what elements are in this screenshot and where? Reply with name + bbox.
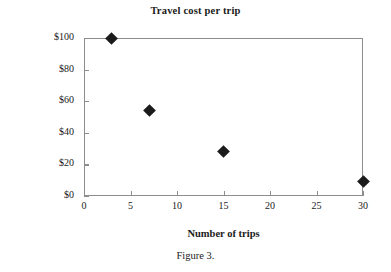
data-point bbox=[217, 145, 230, 158]
y-axis-tick-label: $80 bbox=[4, 63, 74, 74]
y-axis-tick-label: $20 bbox=[4, 157, 74, 168]
x-axis-tick-label: 30 bbox=[343, 200, 383, 211]
x-axis-tick-label: 20 bbox=[250, 200, 290, 211]
x-axis-tick-label: 0 bbox=[64, 200, 104, 211]
x-axis-tick bbox=[224, 191, 225, 196]
figure-caption: Figure 3. bbox=[0, 250, 391, 261]
chart-title: Travel cost per trip bbox=[0, 5, 391, 16]
figure-container: Travel cost per trip $0$20$40$60$80$100 … bbox=[0, 0, 391, 272]
y-axis-tick bbox=[84, 164, 89, 165]
plot-area bbox=[84, 38, 363, 196]
y-axis-tick bbox=[84, 38, 89, 39]
x-axis-tick bbox=[363, 191, 364, 196]
data-point bbox=[357, 175, 370, 188]
y-axis-tick-label: $40 bbox=[4, 126, 74, 137]
x-axis-tick-label: 15 bbox=[204, 200, 244, 211]
y-axis-tick bbox=[84, 101, 89, 102]
y-axis-tick bbox=[84, 196, 89, 197]
data-point bbox=[106, 32, 119, 45]
x-axis-tick bbox=[177, 191, 178, 196]
x-axis-title: Number of trips bbox=[84, 228, 363, 239]
y-axis-tick-labels: $0$20$40$60$80$100 bbox=[0, 38, 78, 196]
x-axis-tick bbox=[317, 191, 318, 196]
x-axis-tick-label: 5 bbox=[111, 200, 151, 211]
data-point bbox=[143, 104, 156, 117]
y-axis-tick-label: $60 bbox=[4, 94, 74, 105]
y-axis-tick bbox=[84, 70, 89, 71]
y-axis-tick-label: $0 bbox=[4, 189, 74, 200]
x-axis-tick bbox=[131, 191, 132, 196]
y-axis-tick-label: $100 bbox=[4, 31, 74, 42]
y-axis-tick bbox=[84, 133, 89, 134]
x-axis-tick bbox=[270, 191, 271, 196]
x-axis-tick-label: 10 bbox=[157, 200, 197, 211]
x-axis-tick-label: 25 bbox=[297, 200, 337, 211]
